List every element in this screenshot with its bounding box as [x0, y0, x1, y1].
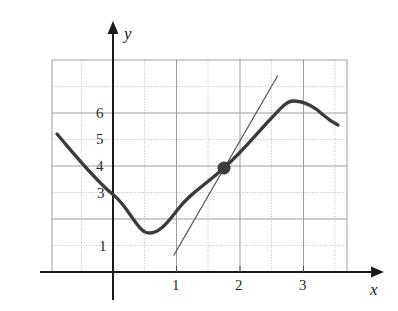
- x-axis-label: x: [370, 281, 378, 298]
- x-axis-arrowhead: [371, 267, 384, 278]
- axes-lines: [40, 21, 384, 300]
- y-axis-label: y: [124, 25, 132, 42]
- x-tick-label-1: 1: [172, 278, 180, 293]
- x-tick-label-2: 2: [235, 278, 243, 293]
- y-tick-label-1: 1: [99, 239, 107, 254]
- tangency-point-marker: [218, 162, 231, 175]
- y-tick-label-5: 5: [96, 132, 104, 147]
- x-tick-label-3: 3: [299, 278, 307, 293]
- y-tick-label-3: 3: [97, 186, 105, 201]
- y-tick-label-4: 4: [96, 159, 104, 174]
- y-tick-label-6: 6: [96, 106, 104, 121]
- plot-canvas: [0, 0, 398, 311]
- y-axis-arrowhead: [108, 21, 119, 34]
- graph-figure: 6 5 4 3 1 1 2 3 y x: [0, 0, 398, 311]
